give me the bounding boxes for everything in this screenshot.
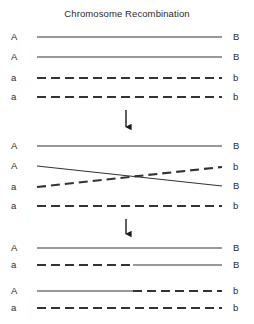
allele-label-right: b <box>233 92 238 102</box>
allele-label-right: B <box>233 181 239 191</box>
allele-label-left: a <box>11 182 16 192</box>
allele-label-left: A <box>11 161 17 171</box>
allele-label-right: B <box>233 32 239 42</box>
allele-label-left: a <box>11 201 16 211</box>
allele-label-left: A <box>11 141 17 151</box>
allele-label-right: b <box>233 286 238 296</box>
allele-label-left: A <box>11 32 17 42</box>
allele-label-left: a <box>11 92 16 102</box>
allele-label-right: b <box>233 73 238 83</box>
allele-label-left: a <box>11 260 16 270</box>
allele-label-left: a <box>11 303 16 313</box>
allele-label-left: A <box>11 52 17 62</box>
allele-label-right: b <box>233 162 238 172</box>
chromatid-segments <box>37 37 222 308</box>
allele-label-right: b <box>233 303 238 313</box>
allele-label-right: B <box>233 141 239 151</box>
chromatid-segment <box>37 167 222 187</box>
chromosome-recombination-figure: Chromosome Recombination ABABababABABaba… <box>0 0 254 324</box>
allele-label-right: B <box>233 52 239 62</box>
allele-label-right: B <box>233 260 239 270</box>
allele-label-left: A <box>11 243 17 253</box>
allele-label-left: a <box>11 73 16 83</box>
chromatid-strand-layer <box>0 0 254 324</box>
allele-label-right: b <box>233 201 238 211</box>
allele-label-right: B <box>233 243 239 253</box>
allele-label-left: A <box>11 286 17 296</box>
